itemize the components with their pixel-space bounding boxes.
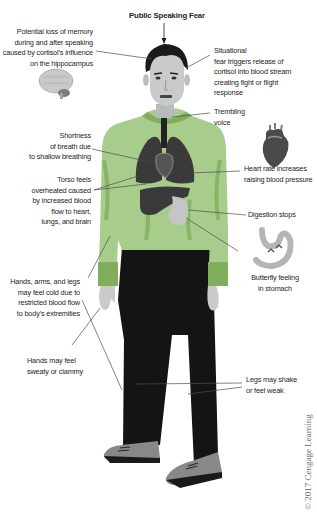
figure-pants [118, 247, 218, 465]
label-trembling-voice: Trembling voice [214, 107, 274, 128]
arrow-down-icon [162, 23, 167, 44]
diagram-title: Public Speaking Fear [117, 11, 217, 22]
label-situational-fear: Situational fear triggers release of cor… [214, 46, 314, 99]
label-cold-extremities: Hands, arms, and legs may feel cold due … [2, 277, 80, 319]
figure-head [143, 44, 190, 118]
label-butterfly-feeling: Butterfly feeling in stomach [240, 273, 310, 294]
label-sweaty-hands: Hands may feel sweaty or clammy [27, 356, 97, 377]
label-digestion-stops: Digestion stops [248, 210, 317, 221]
label-legs-shake: Legs may shake or feel weak [246, 375, 316, 396]
stomach-icon [256, 230, 291, 266]
label-memory-loss: Potential loss of memory during and afte… [2, 27, 93, 69]
heart-icon [263, 123, 289, 168]
label-shortness-of-breath: Shortness of breath due to shallow breat… [2, 131, 91, 163]
label-torso-overheated: Torso feels overheated caused by increas… [2, 175, 91, 228]
brain-icon [39, 69, 73, 99]
label-heart-rate: Heart rate increases raising blood press… [244, 164, 317, 185]
copyright-notice: © 2017 Cengage Learning [303, 414, 313, 510]
